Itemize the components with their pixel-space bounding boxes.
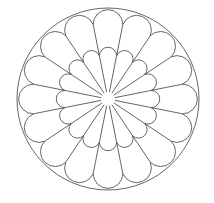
inner-petal-arc [83,136,100,148]
rose-window-svg [0,0,214,203]
outer-petal-arc [171,114,192,143]
radial-line [33,100,101,113]
radial-line [93,24,106,92]
inner-petal-arc [117,136,134,148]
radial-line [114,57,171,95]
outer-petal-arc [171,56,192,85]
outer-petal-arc [123,15,152,36]
outer-petal-arc [40,31,65,56]
rose-window-diagram [0,0,214,203]
inner-petal-arc [83,51,100,63]
outer-petal-arc [24,56,44,85]
radial-line [115,100,183,113]
inner-petal-arc [132,60,147,75]
outer-petal-arc [19,84,34,114]
radial-line [114,103,171,141]
radial-line [112,36,150,93]
inner-petals [56,47,159,150]
outer-petal-arc [150,31,175,56]
outer-petal-arc [40,141,65,166]
radial-line [112,105,150,162]
outer-petal-arc [93,174,123,189]
outer-petal-arc [123,162,152,183]
inner-petal-arc [60,108,72,125]
radial-line [109,24,122,92]
outer-petal-arc [183,84,198,114]
outer-petal-arc [24,114,45,143]
inner-petal-arc [132,123,147,138]
outer-petal-arc [65,15,94,35]
radial-line [109,106,122,174]
outer-circle [17,8,199,190]
inner-petal-arc [60,74,72,91]
outer-petal-arc [65,162,94,183]
outer-petal-arc [93,10,123,25]
radial-line [66,36,104,93]
radial-line [66,105,104,162]
radial-line [45,103,102,141]
inner-petal-arc [69,123,84,138]
inner-petal-arc [145,108,157,125]
inner-petal-arc [117,51,134,63]
radial-line [45,57,102,95]
inner-petal-arc [145,74,157,91]
radial-line [93,106,106,174]
inner-petal-arc [99,142,116,151]
inner-petal-arc [56,90,65,107]
inner-petal-arc [69,60,84,75]
radial-line [115,84,183,97]
inner-petal-arc [151,90,160,107]
inner-petal-arc [99,47,116,56]
outer-petal-arc [150,141,175,166]
outer-petals [19,10,198,189]
radial-line [33,84,101,97]
